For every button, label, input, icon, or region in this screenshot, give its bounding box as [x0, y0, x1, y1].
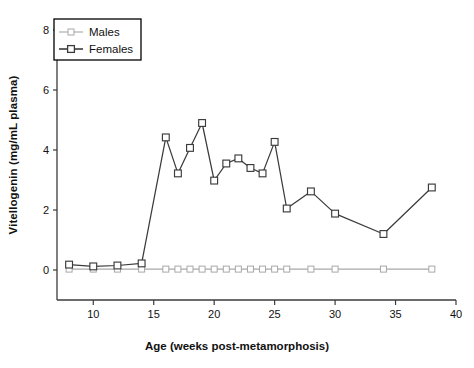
data-point-marker [211, 177, 218, 184]
data-point-marker [308, 266, 314, 272]
data-point-marker [380, 231, 387, 238]
legend-marker-swatch [68, 46, 75, 53]
data-point-marker [332, 210, 339, 217]
x-tick-label: 35 [389, 308, 401, 320]
data-point-marker [162, 134, 169, 141]
series-females [66, 120, 436, 270]
y-tick-label: 4 [43, 144, 49, 156]
x-tick-label: 25 [269, 308, 281, 320]
data-point-marker [211, 266, 217, 272]
data-point-marker [235, 266, 241, 272]
x-tick-label: 20 [208, 308, 220, 320]
data-point-marker [380, 266, 386, 272]
data-point-marker [199, 120, 206, 127]
data-point-marker [429, 266, 435, 272]
data-point-marker [175, 170, 182, 177]
x-tick-label: 10 [87, 308, 99, 320]
y-tick-label: 2 [43, 204, 49, 216]
y-tick-label: 6 [43, 84, 49, 96]
data-point-marker [283, 205, 290, 212]
data-point-marker [284, 266, 290, 272]
data-point-marker [223, 160, 230, 167]
data-point-marker [260, 266, 266, 272]
data-point-marker [66, 261, 73, 268]
data-point-marker [187, 145, 194, 152]
data-point-marker [428, 184, 435, 191]
data-point-marker [90, 263, 97, 270]
data-point-marker [199, 266, 205, 272]
x-tick-label: 40 [450, 308, 462, 320]
data-point-marker [223, 266, 229, 272]
legend-marker-swatch [68, 29, 74, 35]
legend-label: Males [89, 26, 120, 38]
data-point-marker [138, 260, 145, 267]
data-point-marker [114, 262, 121, 269]
legend-label: Females [89, 43, 133, 55]
figure-panel: Vitellogenin (mg/mL plasma) 024681015202… [0, 0, 474, 368]
data-point-marker [175, 266, 181, 272]
data-point-marker [308, 188, 315, 195]
x-tick-label: 30 [329, 308, 341, 320]
y-tick-label: 8 [43, 24, 49, 36]
data-point-marker [163, 266, 169, 272]
data-point-marker [272, 266, 278, 272]
x-axis-title: Age (weeks post-metamorphosis) [0, 340, 474, 352]
data-point-marker [247, 266, 253, 272]
y-tick-label: 0 [43, 264, 49, 276]
data-point-marker [235, 155, 242, 162]
data-point-marker [259, 170, 266, 177]
chart-svg: 0246810152025303540MalesFemales [0, 0, 474, 368]
series-line [69, 123, 432, 266]
data-point-marker [271, 139, 278, 146]
data-point-marker [332, 266, 338, 272]
x-tick-label: 15 [148, 308, 160, 320]
data-point-marker [247, 165, 254, 172]
data-point-marker [187, 266, 193, 272]
